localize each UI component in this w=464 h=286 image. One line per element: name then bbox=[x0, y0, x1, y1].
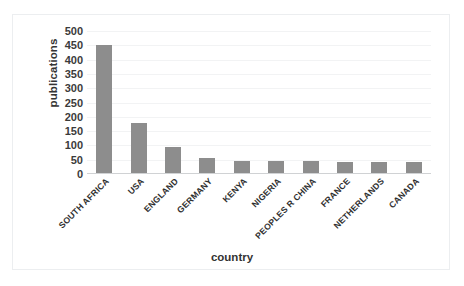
x-tick-slot: NETHERLANDS bbox=[362, 174, 396, 250]
x-tick-slot: PEOPLES R CHINA bbox=[293, 174, 327, 250]
bar[interactable] bbox=[96, 45, 112, 174]
x-axis-tick-label: KENYA bbox=[220, 176, 248, 204]
y-axis-tick-label: 500 bbox=[41, 26, 83, 37]
bar-slot bbox=[121, 31, 155, 174]
bar-series bbox=[87, 31, 431, 174]
bar-slot bbox=[156, 31, 190, 174]
y-axis-tick-label: 400 bbox=[41, 54, 83, 65]
bar-slot bbox=[225, 31, 259, 174]
bar-slot bbox=[397, 31, 431, 174]
y-axis-tick-label: 300 bbox=[41, 83, 83, 94]
plot-area bbox=[87, 31, 431, 174]
bar[interactable] bbox=[131, 123, 147, 174]
y-axis-tick-label: 350 bbox=[41, 68, 83, 79]
x-axis-tick-label: USA bbox=[125, 176, 145, 196]
x-tick-slot: CANADA bbox=[397, 174, 431, 250]
bar-slot bbox=[259, 31, 293, 174]
x-axis-tick-labels: SOUTH AFRICAUSAENGLANDGERMANYKENYANIGERI… bbox=[87, 174, 431, 250]
y-axis-tick-label: 100 bbox=[41, 140, 83, 151]
x-axis-tick-label: SOUTH AFRICA bbox=[57, 176, 111, 230]
x-axis-title: country bbox=[13, 251, 451, 263]
y-axis-tick-label: 50 bbox=[41, 154, 83, 165]
y-axis-tick-label: 150 bbox=[41, 126, 83, 137]
bar-slot bbox=[190, 31, 224, 174]
y-axis-tick-label: 450 bbox=[41, 40, 83, 51]
bar-slot bbox=[293, 31, 327, 174]
y-axis-tick-labels: 500450400350300250200150100500 bbox=[41, 31, 83, 174]
y-axis-tick-label: 200 bbox=[41, 111, 83, 122]
x-tick-slot: GERMANY bbox=[190, 174, 224, 250]
chart-container: publications 500450400350300250200150100… bbox=[12, 14, 450, 270]
bar[interactable] bbox=[165, 147, 181, 174]
bar-slot bbox=[328, 31, 362, 174]
y-axis-tick-label: 0 bbox=[41, 169, 83, 180]
x-tick-slot: KENYA bbox=[225, 174, 259, 250]
bar[interactable] bbox=[199, 158, 215, 174]
bar-slot bbox=[362, 31, 396, 174]
x-tick-slot: SOUTH AFRICA bbox=[87, 174, 121, 250]
y-axis-tick-label: 250 bbox=[41, 97, 83, 108]
bar-slot bbox=[87, 31, 121, 174]
